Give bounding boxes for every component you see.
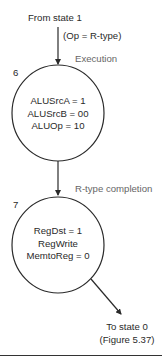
state-6-signals: ALUSrcA = 1 ALUSrcB = 00 ALUOp = 10 <box>12 95 104 133</box>
state-number-7: 7 <box>13 199 18 210</box>
signal: RegDst = 1 <box>12 225 104 238</box>
state-number-6: 6 <box>13 67 18 78</box>
phase-label-execution: Execution <box>75 53 117 64</box>
signal: ALUOp = 10 <box>12 120 104 133</box>
figure-reference: (Figure 5.37) <box>97 334 157 345</box>
signal: ALUSrcA = 1 <box>12 95 104 108</box>
state-7-signals: RegDst = 1 RegWrite MemtoReg = 0 <box>12 225 104 263</box>
signal: MemtoReg = 0 <box>12 250 104 263</box>
signal: ALUSrcB = 00 <box>12 108 104 121</box>
exit-arrow <box>91 279 121 314</box>
transition-condition: (Op = R-type) <box>63 30 121 41</box>
phase-label-r-type-completion: R-type completion <box>75 183 152 194</box>
signal: RegWrite <box>12 238 104 251</box>
from-state-label: From state 1 <box>28 12 82 23</box>
to-state-label: To state 0 <box>97 321 157 332</box>
